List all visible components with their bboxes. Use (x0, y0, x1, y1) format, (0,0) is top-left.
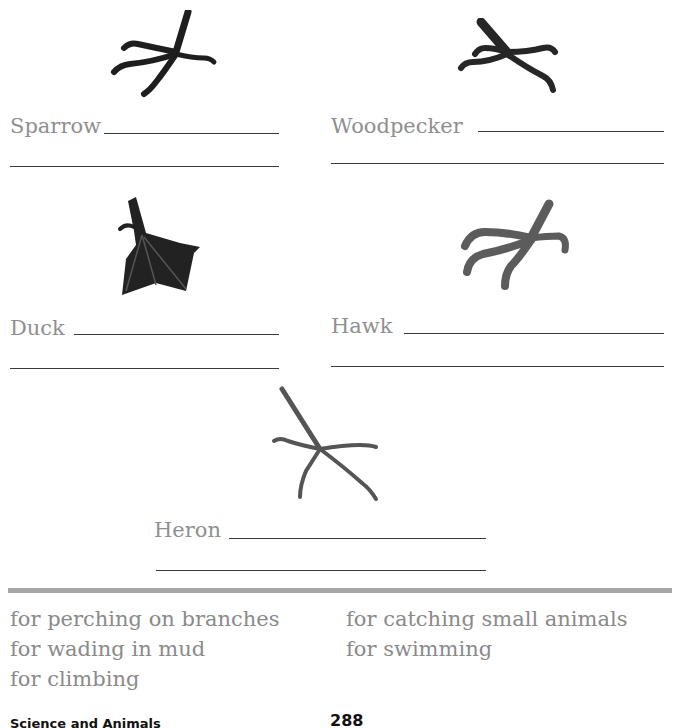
answer-line-duck-1[interactable] (74, 334, 279, 335)
answer-option: for perching on branches (10, 604, 280, 634)
bird-label-duck: Duck (10, 316, 65, 340)
answer-line-woodpecker-2[interactable] (331, 163, 664, 164)
section-divider (8, 588, 672, 593)
hawk-foot-icon (455, 198, 575, 292)
answer-line-hawk-1[interactable] (404, 333, 664, 334)
answer-options-left: for perching on branches for wading in m… (10, 604, 280, 694)
answer-option: for climbing (10, 664, 280, 694)
answer-line-sparrow-2[interactable] (10, 166, 279, 167)
bird-label-sparrow: Sparrow (10, 114, 101, 138)
answer-line-heron-1[interactable] (229, 538, 486, 539)
answer-option: for wading in mud (10, 634, 280, 664)
answer-line-duck-2[interactable] (10, 368, 279, 369)
duck-foot-icon (116, 193, 208, 297)
answer-line-hawk-2[interactable] (331, 366, 664, 367)
page-number: 288 (330, 711, 363, 728)
bird-label-heron: Heron (154, 518, 221, 542)
answer-line-woodpecker-1[interactable] (478, 131, 664, 132)
answer-option: for swimming (346, 634, 628, 664)
sparrow-foot-icon (108, 10, 218, 98)
bird-label-woodpecker: Woodpecker (331, 114, 463, 138)
woodpecker-foot-icon (455, 18, 565, 96)
answer-option: for catching small animals (346, 604, 628, 634)
answer-options-right: for catching small animals for swimming (346, 604, 628, 664)
bird-label-hawk: Hawk (331, 314, 393, 338)
heron-foot-icon (270, 385, 385, 505)
answer-line-heron-2[interactable] (156, 570, 486, 571)
footer-section-title: Science and Animals (10, 716, 161, 728)
answer-line-sparrow-1[interactable] (104, 133, 279, 134)
